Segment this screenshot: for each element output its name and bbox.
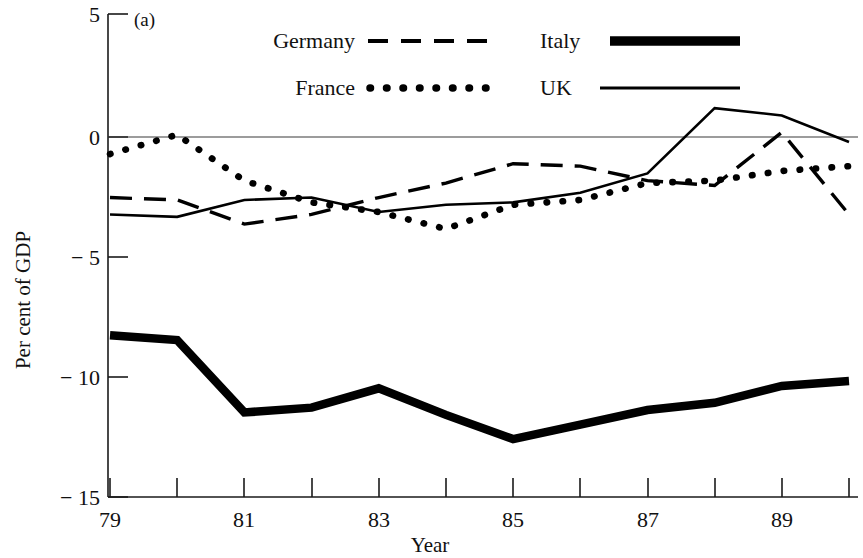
line-chart-svg: 5 0 − 5 − 10 − 15 Per cent of GDP 79 8 xyxy=(0,0,863,558)
y-tick-label-minus5: − 5 xyxy=(71,245,100,270)
x-tick-label-83: 83 xyxy=(368,507,390,532)
y-tick-label-minus15: − 15 xyxy=(60,485,100,510)
chart-figure: 5 0 − 5 − 10 − 15 Per cent of GDP 79 8 xyxy=(0,0,863,558)
x-tick-label-81: 81 xyxy=(233,507,255,532)
legend-label-uk: UK xyxy=(540,75,572,100)
legend-label-germany: Germany xyxy=(273,28,355,53)
y-axis-title: Per cent of GDP xyxy=(11,231,35,369)
series-line-uk xyxy=(110,108,849,217)
chart-legend: Germany France Italy UK xyxy=(273,28,740,100)
y-tick-label-minus10: − 10 xyxy=(60,365,100,390)
panel-label: (a) xyxy=(134,9,155,31)
x-axis-ticks xyxy=(110,478,849,497)
x-tick-label-87: 87 xyxy=(637,507,659,532)
x-tick-label-89: 89 xyxy=(771,507,793,532)
y-tick-label-5: 5 xyxy=(89,2,100,27)
y-tick-label-0: 0 xyxy=(89,125,100,150)
x-axis-tick-labels: 79 81 83 85 87 89 xyxy=(99,507,793,532)
y-axis-ticks xyxy=(108,14,128,497)
x-tick-label-85: 85 xyxy=(502,507,524,532)
x-tick-label-79: 79 xyxy=(99,507,121,532)
legend-label-france: France xyxy=(295,75,355,100)
y-axis-tick-labels: 5 0 − 5 − 10 − 15 xyxy=(60,2,100,510)
series-line-italy xyxy=(110,335,849,439)
x-axis-title: Year xyxy=(411,533,450,557)
legend-label-italy: Italy xyxy=(540,28,580,53)
